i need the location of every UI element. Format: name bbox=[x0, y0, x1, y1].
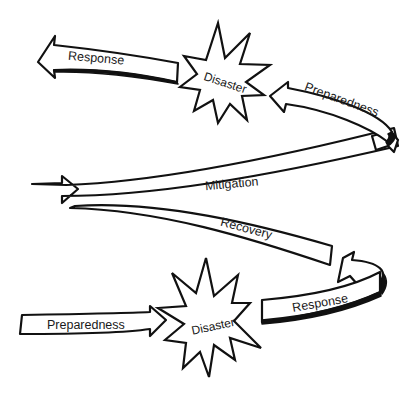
disaster-bottom-burst: Disaster bbox=[158, 258, 261, 377]
response-bottom-arrow: Response bbox=[262, 272, 381, 324]
recovery-arrow: Recovery bbox=[70, 205, 332, 265]
preparedness-bottom-arrow: Preparedness bbox=[20, 306, 166, 336]
response-top-arrow: Response bbox=[38, 36, 178, 84]
disaster-top-burst: Disaster bbox=[180, 23, 270, 123]
mitigation-arrow: Mitigation bbox=[32, 124, 398, 203]
preparedness-bottom-label: Preparedness bbox=[47, 318, 125, 332]
disaster-cycle-diagram: Mitigation Recovery Response Response Pr… bbox=[0, 0, 415, 395]
